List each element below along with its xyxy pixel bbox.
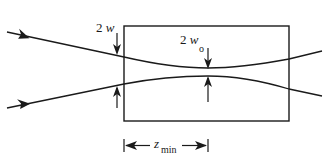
zmin-subscript: min <box>161 144 177 155</box>
input-width-label: 2 w <box>96 20 115 35</box>
zmin-label: z <box>153 136 159 151</box>
upper-beam-edge <box>7 32 322 68</box>
medium-box <box>124 26 289 121</box>
waist-width-label: 2 w <box>180 32 199 47</box>
gaussian-beam-diagram: 2 w 2 w o z min <box>0 0 326 159</box>
waist-width-subscript: o <box>199 43 204 54</box>
lower-beam-edge <box>7 76 322 108</box>
